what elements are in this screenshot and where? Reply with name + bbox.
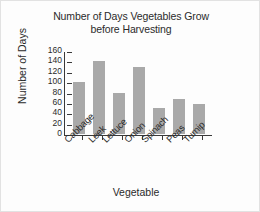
y-tick-mark: [67, 125, 72, 126]
y-axis-tick: 120: [24, 73, 72, 74]
y-axis-tick: 160: [24, 52, 72, 53]
y-tick-label: 60: [53, 98, 62, 107]
y-tick-mark: [67, 52, 72, 53]
y-tick-label: 120: [48, 67, 62, 76]
y-axis-tick: 80: [24, 94, 72, 95]
y-axis-tick: 140: [24, 62, 72, 63]
y-tick-label: 140: [48, 56, 62, 65]
y-tick-mark: [67, 94, 72, 95]
y-axis-title: Number of Days: [16, 23, 28, 109]
chart-title-line-2: before Harvesting: [21, 23, 241, 36]
x-axis-category-labels: Cabbage Leek Lettuce Onion Spinach Peas …: [64, 137, 214, 183]
y-axis-tick: 20: [24, 125, 72, 126]
y-tick-label: 80: [53, 88, 62, 97]
y-tick-mark: [67, 83, 72, 84]
chart-title-line-1: Number of Days Vegetables Grow: [53, 10, 209, 22]
y-tick-label: 160: [48, 46, 62, 55]
y-tick-label: 20: [53, 119, 62, 128]
y-tick-mark: [67, 62, 72, 63]
y-tick-mark: [67, 104, 72, 105]
y-tick-mark: [67, 73, 72, 74]
y-axis-tick: 40: [24, 114, 72, 115]
y-axis-tick: 100: [24, 83, 72, 84]
y-axis-tick: 60: [24, 104, 72, 105]
chart-title: Number of Days Vegetables Grow before Ha…: [21, 10, 241, 36]
x-axis-title: Vegetable: [61, 186, 211, 198]
y-tick-mark: [67, 114, 72, 115]
y-tick-label: 40: [53, 108, 62, 117]
bar-chart-figure: Number of Days Vegetables Grow before Ha…: [0, 0, 260, 212]
y-tick-label: 100: [48, 77, 62, 86]
